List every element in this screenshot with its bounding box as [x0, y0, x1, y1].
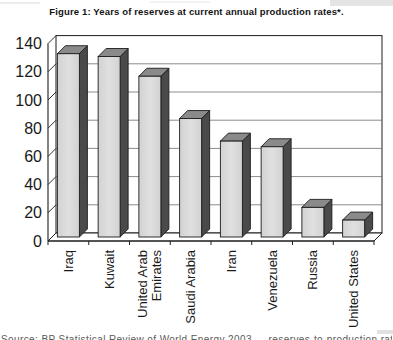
y-tick-connector	[48, 92, 56, 100]
bar-venezuela	[261, 147, 283, 237]
y-tick-connector	[48, 177, 56, 185]
bar-united-arab-emirates	[139, 76, 161, 237]
x-category-label: United States	[346, 250, 361, 329]
y-tick-connector	[48, 205, 56, 213]
bar-saudi-arabia	[180, 119, 202, 237]
source-footnote: Source: BP Statistical Review of World E…	[1, 334, 392, 340]
y-tick-label: 120	[15, 63, 42, 80]
bar-kuwait	[98, 57, 120, 237]
y-tick-label: 60	[24, 148, 42, 165]
y-tick-label: 140	[15, 35, 42, 52]
bar-russia	[302, 207, 324, 237]
x-category-label: United Arab	[135, 250, 150, 318]
bar-chart-3d: 020406080100120140IraqKuwaitUnited ArabE…	[0, 0, 393, 340]
x-category-label: Kuwait	[102, 250, 117, 289]
bar-side-venezuela	[283, 139, 291, 237]
x-category-label: Venezuela	[265, 249, 280, 310]
bar-side-iran	[242, 133, 250, 237]
bar-united-states	[343, 220, 365, 237]
figure-scan: Figure 1: Years of reserves at current a…	[0, 0, 393, 340]
x-category-label: Iraq	[61, 250, 76, 272]
x-category-label: Saudi Arabia	[183, 249, 198, 323]
y-tick-connector	[48, 148, 56, 156]
y-tick-label: 100	[15, 92, 42, 109]
x-category-label: Iran	[224, 250, 239, 272]
y-tick-connector	[48, 64, 56, 72]
y-tick-label: 40	[24, 176, 42, 193]
bar-side-saudi-arabia	[202, 111, 210, 237]
x-category-label: Russia	[305, 249, 320, 290]
y-tick-label: 20	[24, 204, 42, 221]
bar-iraq	[57, 54, 79, 237]
bar-side-kuwait	[120, 49, 128, 237]
y-tick-connector	[48, 36, 56, 44]
y-tick-connector	[48, 120, 56, 128]
bar-iran	[220, 141, 242, 237]
y-tick-label: 80	[24, 120, 42, 137]
x-category-label: Emirates	[149, 250, 164, 302]
bar-side-iraq	[79, 46, 87, 237]
scan-artifact	[377, 330, 393, 334]
bar-side-united-arab-emirates	[161, 68, 169, 237]
y-tick-label: 0	[33, 233, 42, 250]
